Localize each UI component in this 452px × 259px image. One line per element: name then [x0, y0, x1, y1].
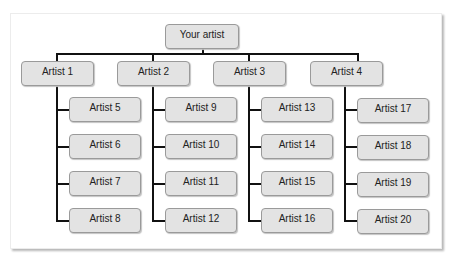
tick [152, 146, 165, 148]
branch-node-3[interactable]: Artist 3 [213, 61, 286, 86]
branch-node-2[interactable]: Artist 2 [117, 61, 190, 86]
child-node[interactable]: Artist 10 [165, 134, 237, 159]
tick [152, 220, 165, 222]
tick [248, 146, 261, 148]
tick [344, 220, 357, 222]
tick [344, 183, 357, 185]
tick [152, 109, 165, 111]
child-node[interactable]: Artist 9 [165, 97, 237, 122]
child-node[interactable]: Artist 18 [357, 135, 429, 160]
tick [248, 183, 261, 185]
tick [56, 109, 69, 111]
child-node[interactable]: Artist 20 [357, 209, 429, 234]
child-node[interactable]: Artist 6 [69, 134, 141, 159]
child-node[interactable]: Artist 16 [261, 208, 333, 233]
child-node[interactable]: Artist 12 [165, 208, 237, 233]
tick [344, 109, 357, 111]
tick [56, 146, 69, 148]
tick [152, 183, 165, 185]
branch-4-spine [344, 85, 346, 221]
branch-1-drop [56, 53, 58, 61]
branch-node-1[interactable]: Artist 1 [21, 61, 94, 86]
child-node[interactable]: Artist 11 [165, 171, 237, 196]
child-node[interactable]: Artist 19 [357, 172, 429, 197]
tick [248, 220, 261, 222]
branch-2-drop [152, 53, 154, 61]
child-node[interactable]: Artist 7 [69, 171, 141, 196]
child-node[interactable]: Artist 13 [261, 97, 333, 122]
child-node[interactable]: Artist 8 [69, 208, 141, 233]
branch-3-drop [248, 53, 250, 61]
child-node[interactable]: Artist 17 [357, 98, 429, 123]
tick [248, 109, 261, 111]
child-node[interactable]: Artist 15 [261, 171, 333, 196]
child-node[interactable]: Artist 5 [69, 97, 141, 122]
tick [344, 146, 357, 148]
child-node[interactable]: Artist 14 [261, 134, 333, 159]
branch-4-drop [357, 53, 359, 61]
tick [56, 183, 69, 185]
branch-1-spine [56, 85, 58, 221]
branch-node-4[interactable]: Artist 4 [310, 61, 383, 86]
branch-3-spine [248, 85, 250, 221]
root-node[interactable]: Your artist [165, 24, 239, 49]
branch-2-spine [152, 85, 154, 221]
top-horizontal-connector [56, 53, 359, 55]
tick [56, 220, 69, 222]
